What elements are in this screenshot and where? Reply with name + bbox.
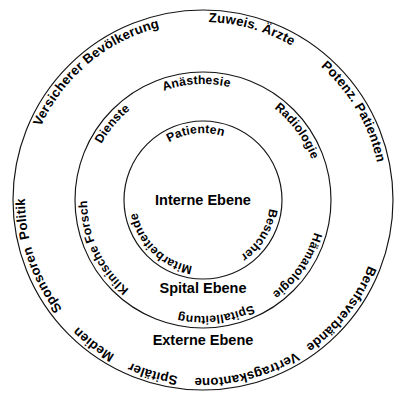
stakeholder-circle-diagram: Versicherer Bevölkerung Zuweis. Ärzte Po…: [0, 0, 415, 400]
level-label-spital-ebene: Spital Ebene: [159, 280, 246, 296]
level-label-interne-ebene: Interne Ebene: [155, 192, 251, 208]
level-label-externe-ebene: Externe Ebene: [153, 332, 254, 348]
concentric-circle-diagram-svg: Versicherer Bevölkerung Zuweis. Ärzte Po…: [0, 0, 415, 400]
